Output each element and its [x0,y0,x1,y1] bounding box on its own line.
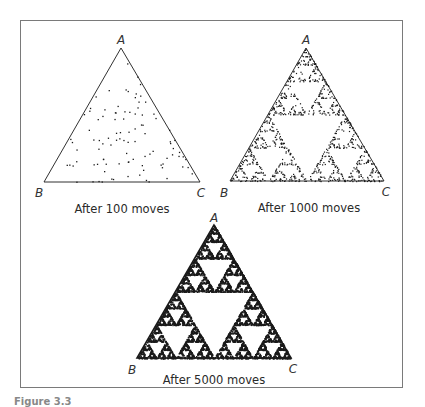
point [324,152,325,153]
point [315,67,316,68]
point [194,325,196,327]
point [271,341,273,343]
point [201,351,203,353]
point [258,316,260,318]
point [339,126,340,127]
point [249,323,251,325]
point [196,262,198,264]
point [165,345,167,347]
point [207,349,209,351]
point [106,164,107,165]
point [273,333,275,335]
point [347,180,348,181]
point [189,290,191,292]
point [335,106,336,107]
point [236,289,238,291]
point [276,337,278,339]
point [349,177,350,178]
point [249,352,251,354]
point [369,180,370,181]
point [352,128,353,129]
point [235,322,237,324]
panel-100-points [67,63,193,183]
point [144,346,146,348]
point [370,160,371,161]
point [198,289,200,291]
point [184,308,186,310]
point [220,287,222,289]
point [103,159,104,160]
point [246,290,248,292]
point [279,164,280,165]
point [126,89,127,90]
point [247,155,248,156]
point [250,163,251,164]
point [182,353,184,355]
point [306,49,307,50]
point [234,339,236,341]
point [276,139,277,140]
point [278,106,279,107]
point [279,113,280,114]
point [330,159,331,160]
point [183,354,185,356]
point [256,299,258,301]
panel-5000-vertex-c-label: C [289,363,297,375]
point [187,315,189,317]
point [171,325,173,327]
point [274,180,275,181]
point [300,72,301,73]
point [247,164,248,165]
point [299,168,300,169]
point [185,159,186,160]
point [314,61,315,62]
point [240,273,242,275]
point [338,129,339,130]
point [348,144,349,145]
point [169,130,170,131]
point [357,161,358,162]
panel-100-vertex-a-label: A [117,34,125,46]
point [172,325,174,327]
point [142,114,143,115]
point [268,323,270,325]
point [166,310,168,312]
point [289,181,290,182]
point [224,276,226,278]
point [322,114,323,115]
point [299,113,300,114]
point [339,177,340,178]
point [274,142,275,143]
point [211,257,213,259]
point [205,349,207,351]
point [298,63,299,64]
point [326,98,327,99]
point [244,345,246,347]
point [144,133,145,134]
point [301,114,302,115]
point [371,181,372,182]
point [254,356,256,358]
point [293,114,294,115]
point [331,156,332,157]
point [258,353,260,355]
point [379,181,380,182]
point [337,129,338,130]
point [237,325,239,327]
point [143,349,145,351]
point [227,340,229,342]
point [192,263,194,265]
point [135,113,136,114]
point [129,112,130,113]
point [192,266,194,268]
point [273,140,274,141]
point [160,340,162,342]
point [353,147,354,148]
point [199,335,201,337]
point [181,316,183,318]
point [361,146,362,147]
point [321,177,322,178]
figure-stage: A B C After 100 moves A B C After 1000 m… [0,0,425,407]
point [69,165,70,166]
point [160,336,162,338]
